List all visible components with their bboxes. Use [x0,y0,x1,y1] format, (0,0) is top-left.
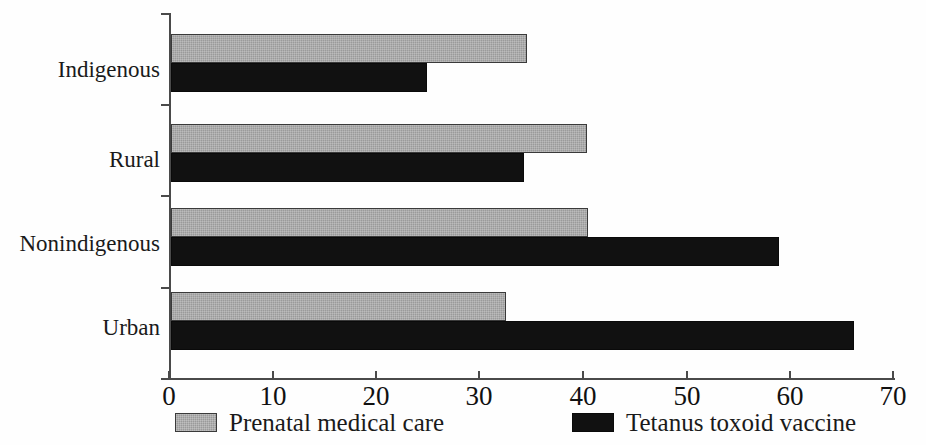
bar-indigenous-prenatal [171,34,527,63]
bar-indigenous-tetanus [171,63,427,92]
x-axis-tick [582,371,584,380]
x-axis-tick [892,371,894,380]
bar-urban-tetanus [171,321,854,350]
y-axis-category-label-nonindigenous: Nonindigenous [0,232,160,255]
legend-label-tetanus: Tetanus toxoid vaccine [626,410,856,435]
x-axis-tick [168,371,170,380]
bar-rural-prenatal [171,124,587,153]
x-axis-tick [789,371,791,380]
y-axis-tick [161,287,170,289]
y-axis-category-label-indigenous: Indigenous [0,58,160,81]
y-axis-tick [161,13,170,15]
x-axis-tick [272,371,274,380]
y-axis-category-label-urban: Urban [0,316,160,339]
chart-legend: Prenatal medical care Tetanus toxoid vac… [0,404,926,444]
bar-nonindigenous-tetanus [171,237,779,266]
x-axis-tick [686,371,688,380]
gray-swatch-icon [175,413,217,432]
x-axis-tick [478,371,480,380]
y-axis-tick [161,195,170,197]
y-axis-tick [161,104,170,106]
x-axis-line [169,378,895,380]
x-axis-tick [375,371,377,380]
legend-label-prenatal: Prenatal medical care [229,410,444,435]
y-axis-category-label-rural: Rural [0,148,160,171]
bar-urban-prenatal [171,292,506,321]
legend-item-prenatal: Prenatal medical care [175,410,444,435]
black-swatch-icon [572,413,614,432]
bar-rural-tetanus [171,153,524,182]
legend-item-tetanus: Tetanus toxoid vaccine [572,410,856,435]
bar-nonindigenous-prenatal [171,208,588,237]
horizontal-bar-chart: Indigenous Rural Nonindigenous Urban 0 1… [0,0,926,445]
